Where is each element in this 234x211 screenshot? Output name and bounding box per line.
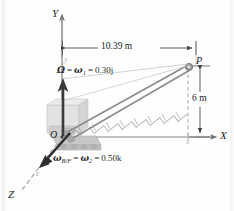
omega1-subscript: 1 <box>83 69 86 76</box>
omega1-equals-1: = <box>67 65 72 75</box>
omega1-value: 0.30j <box>95 65 113 75</box>
omega1-equals-2: = <box>88 65 93 75</box>
omega1-label: Ω=ω1=0.30j <box>57 66 113 76</box>
crane-body <box>47 99 101 150</box>
point-label-O: O <box>50 130 57 140</box>
dimension-label-horizontal: 10.39 m <box>101 42 132 52</box>
omega2-label: ωB/F=ω2=0.50k <box>53 154 122 164</box>
axis-label-x-small: x <box>186 138 190 146</box>
axis-label-X: X <box>220 130 227 141</box>
crane-diagram-svg <box>0 0 234 211</box>
omega2-subscript-2: 2 <box>89 157 92 164</box>
dimension-label-vertical: 6 m <box>192 94 207 104</box>
omega1-symbol-omega: ω <box>74 65 83 75</box>
axis-label-z-small: z <box>36 170 39 178</box>
omega2-equals-2: = <box>94 153 99 163</box>
omega2-symbol-omega-2: ω <box>80 153 89 163</box>
figure-root: Y X Z y x z P O 10.39 m 6 m Ω=ω1=0.30j ω… <box>0 0 234 211</box>
axis-label-Z: Z <box>8 189 14 200</box>
omega2-subscript-bf: B/F <box>62 157 72 164</box>
omega2-equals-1: = <box>73 153 78 163</box>
axis-label-y-small: y <box>64 56 68 64</box>
omega1-symbol-capital: Ω <box>57 65 65 75</box>
origin-dot <box>61 136 64 139</box>
axis-label-Y: Y <box>52 8 58 19</box>
point-label-P: P <box>196 56 202 66</box>
omega2-symbol-omega-1: ω <box>53 153 62 163</box>
omega2-value: 0.50k <box>101 153 121 163</box>
